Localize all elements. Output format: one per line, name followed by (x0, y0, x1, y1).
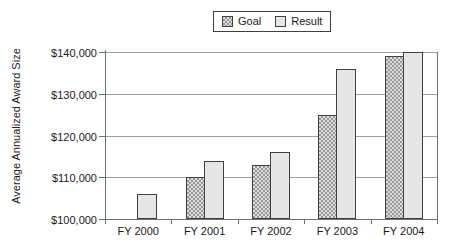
y-tick-$130,000 (99, 94, 105, 95)
legend-item-result: Result (275, 16, 322, 28)
y-tick-$110,000 (99, 177, 105, 178)
y-tick-label-$130,000: $130,000 (39, 90, 97, 101)
y-tick-$140,000 (99, 52, 105, 53)
bar-result-fy-2002 (270, 152, 290, 219)
bar-goal-fy-2002 (252, 165, 272, 219)
legend-item-goal: Goal (222, 16, 261, 28)
x-axis-label-fy-2000: FY 2000 (117, 226, 158, 237)
y-tick-label-$110,000: $110,000 (39, 173, 97, 184)
y-tick-label-$100,000: $100,000 (39, 215, 97, 226)
x-tick-4 (371, 219, 372, 224)
bar-result-fy-2000 (137, 194, 157, 219)
x-axis-label-fy-2004: FY 2004 (383, 226, 424, 237)
x-tick-1 (171, 219, 172, 224)
y-axis-title: Average Annualized Award Size (10, 48, 22, 204)
plot-right-border (437, 52, 438, 219)
x-axis-label-fy-2003: FY 2003 (317, 226, 358, 237)
bar-goal-fy-2003 (318, 115, 338, 219)
goal-legend-label: Goal (238, 16, 261, 28)
x-axis-label-fy-2001: FY 2001 (184, 226, 225, 237)
x-axis-label-fy-2002: FY 2002 (250, 226, 291, 237)
x-tick-3 (304, 219, 305, 224)
y-axis-line (105, 50, 106, 219)
bar-result-fy-2001 (204, 161, 224, 219)
y-tick-label-$120,000: $120,000 (39, 132, 97, 143)
x-tick-2 (238, 219, 239, 224)
x-tick-5 (437, 219, 438, 224)
bar-goal-fy-2001 (186, 177, 206, 219)
goal-swatch-icon (222, 16, 233, 27)
award-size-bar-chart: Goal Result Average Annualized Award Siz… (0, 0, 463, 251)
bar-result-fy-2004 (403, 52, 423, 219)
x-axis-line (105, 219, 438, 220)
y-tick-label-$140,000: $140,000 (39, 48, 97, 59)
result-swatch-icon (275, 16, 286, 27)
x-tick-0 (105, 219, 106, 224)
legend: Goal Result (213, 11, 331, 32)
result-legend-label: Result (291, 16, 322, 28)
y-tick-$120,000 (99, 136, 105, 137)
bar-result-fy-2003 (336, 69, 356, 219)
bar-goal-fy-2004 (385, 56, 405, 219)
gridline-$140,000 (105, 52, 437, 53)
